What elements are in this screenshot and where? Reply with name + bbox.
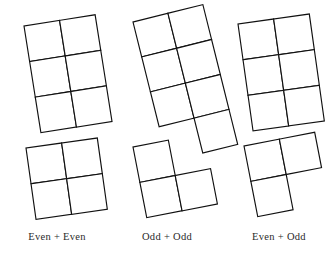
tile-square <box>71 86 112 127</box>
tile-square <box>238 19 279 60</box>
tile-square <box>67 174 108 215</box>
tile-square <box>284 85 325 126</box>
tile-square <box>248 90 289 131</box>
tile-square <box>26 143 67 184</box>
even-plus-even-addend-a <box>24 15 112 133</box>
tile-square <box>244 139 286 181</box>
caption-odd-plus-odd: Odd + Odd <box>112 231 222 242</box>
tile-square <box>194 109 238 153</box>
tile-square <box>62 138 103 179</box>
tile-square <box>24 20 65 61</box>
even-six-block <box>24 15 112 133</box>
tile-square <box>140 175 182 217</box>
odd-seven-block <box>133 5 238 162</box>
even-four-block <box>26 138 107 219</box>
tile-square <box>133 140 175 182</box>
even-plus-odd-addend-b <box>244 132 328 216</box>
tile-canvas <box>0 0 336 261</box>
caption-even-plus-even: Even + Even <box>0 231 114 242</box>
tile-square <box>65 50 106 91</box>
tile-square <box>279 50 320 91</box>
tile-square <box>243 55 284 96</box>
even-plus-even-addend-b <box>26 138 107 219</box>
even-six-block-2 <box>238 14 324 131</box>
tile-square <box>30 56 71 97</box>
odd-plus-odd-addend-a <box>133 5 238 162</box>
caption-even-plus-odd: Even + Odd <box>222 231 336 242</box>
tile-square <box>279 132 321 174</box>
tile-square <box>251 174 293 216</box>
tile-square <box>60 15 101 56</box>
tile-square <box>31 179 72 220</box>
tile-square <box>35 91 76 132</box>
parity-diagram: Even + Even Odd + Odd Even + Odd <box>0 0 336 261</box>
even-plus-odd-addend-a <box>238 14 324 131</box>
tile-square <box>175 169 217 211</box>
tile-square <box>274 14 315 55</box>
odd-three-block-2 <box>244 132 328 216</box>
